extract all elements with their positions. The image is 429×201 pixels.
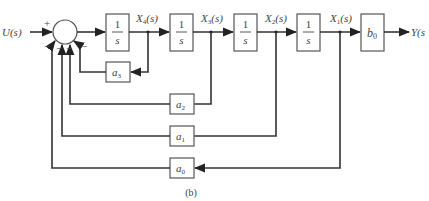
feedback-x1-to-a0 bbox=[195, 32, 340, 168]
input-label: U(s) bbox=[2, 26, 22, 39]
figure-caption: (b) bbox=[185, 187, 197, 199]
feedback-a1-to-sum bbox=[62, 45, 170, 136]
output-label: Y(s bbox=[411, 26, 425, 39]
feedback-x4-to-a3 bbox=[131, 32, 148, 72]
summing-junction bbox=[53, 20, 77, 44]
svg-text:1: 1 bbox=[243, 18, 249, 30]
svg-text:s: s bbox=[306, 34, 310, 46]
plus-sign: + bbox=[44, 17, 50, 29]
feedback-a3-to-sum bbox=[74, 41, 106, 72]
state-label-x4: X4(s) bbox=[135, 12, 158, 26]
svg-text:s: s bbox=[243, 34, 247, 46]
svg-text:s: s bbox=[115, 34, 119, 46]
minus-sign-2: − bbox=[56, 42, 62, 54]
svg-text:1: 1 bbox=[306, 18, 312, 30]
minus-sign-4: − bbox=[81, 40, 87, 52]
svg-text:1: 1 bbox=[179, 18, 185, 30]
block-diagram: + − − − − U(s) Y(s 1 s 1 s 1 s 1 s X4(s)… bbox=[0, 0, 429, 201]
svg-text:s: s bbox=[179, 34, 183, 46]
minus-sign-3: − bbox=[66, 42, 72, 54]
state-label-x3: X3(s) bbox=[200, 12, 223, 26]
state-label-x2: X2(s) bbox=[264, 12, 287, 26]
minus-sign-1: − bbox=[44, 40, 50, 52]
svg-text:1: 1 bbox=[115, 18, 121, 30]
state-label-x1: X1(s) bbox=[329, 12, 352, 26]
